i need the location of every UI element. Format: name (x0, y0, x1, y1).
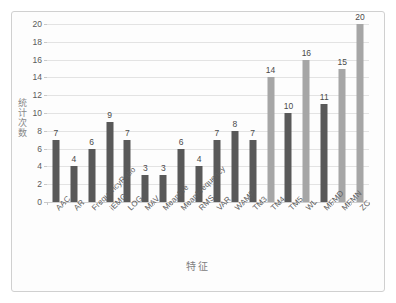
bar-slot: 4 (190, 24, 208, 202)
bar-slot: 20 (351, 24, 369, 202)
bar-slot: 3 (136, 24, 154, 202)
bar[interactable] (339, 69, 346, 203)
bar[interactable] (285, 113, 292, 202)
bar-value-label: 7 (215, 128, 220, 138)
bar-slot: 6 (172, 24, 190, 202)
bar-slot: 9 (101, 24, 119, 202)
bar-slot: 15 (333, 24, 351, 202)
x-tick-mark (47, 202, 48, 205)
bar-value-label: 11 (320, 92, 329, 102)
bar-value-label: 9 (107, 110, 112, 120)
bar-value-label: 3 (161, 163, 166, 173)
bar-value-label: 4 (71, 154, 76, 164)
x-axis-title: 特征 (0, 258, 396, 273)
y-tick-label: 16 (33, 55, 42, 65)
bar-value-label: 20 (355, 12, 364, 22)
bar[interactable] (88, 149, 95, 202)
y-tick-label: 10 (33, 108, 42, 118)
y-tick-label: 6 (37, 144, 42, 154)
bar-slot: 6 (83, 24, 101, 202)
bar[interactable] (231, 131, 238, 202)
bar-slot: 11 (315, 24, 333, 202)
bar-value-label: 6 (179, 137, 184, 147)
y-tick-label: 4 (37, 161, 42, 171)
bar-value-label: 7 (125, 128, 130, 138)
bar-slot: 16 (297, 24, 315, 202)
bar-slot: 7 (244, 24, 262, 202)
bar[interactable] (70, 166, 77, 202)
y-tick-label: 20 (33, 19, 42, 29)
bar[interactable] (267, 77, 274, 202)
chart-figure: 统计次数 02468101214161820 74697336478714101… (0, 0, 396, 303)
bar-value-label: 6 (89, 137, 94, 147)
bar-value-label: 7 (250, 128, 255, 138)
bar-slot: 4 (65, 24, 83, 202)
bar[interactable] (357, 24, 364, 202)
y-tick-label: 14 (33, 72, 42, 82)
bar[interactable] (160, 175, 167, 202)
bar-value-label: 10 (284, 101, 293, 111)
plot-area: 02468101214161820 7469733647871410161115… (47, 24, 369, 202)
bar-slot: 8 (226, 24, 244, 202)
bar-value-label: 15 (337, 57, 346, 67)
bar-value-label: 3 (143, 163, 148, 173)
bar[interactable] (52, 140, 59, 202)
y-tick-label: 2 (37, 179, 42, 189)
y-tick-label: 18 (33, 37, 42, 47)
bar-value-label: 8 (232, 119, 237, 129)
y-tick-label: 8 (37, 126, 42, 136)
bar-value-label: 4 (197, 154, 202, 164)
bar[interactable] (303, 60, 310, 202)
y-tick-label: 0 (37, 197, 42, 207)
bar[interactable] (321, 104, 328, 202)
bar-slot: 7 (47, 24, 65, 202)
bar-value-label: 16 (302, 48, 311, 58)
y-tick-label: 12 (33, 90, 42, 100)
bar-value-label: 14 (266, 65, 275, 75)
bar-slot: 3 (154, 24, 172, 202)
bar-value-label: 7 (54, 128, 59, 138)
bar-slot: 10 (280, 24, 298, 202)
y-axis-title: 统计次数 (14, 78, 28, 158)
bar-slot: 14 (262, 24, 280, 202)
